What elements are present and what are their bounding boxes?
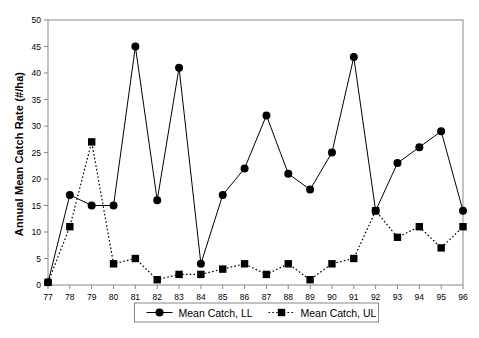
series-point-marker: [241, 260, 248, 267]
series-point-marker: [262, 111, 270, 119]
series-point-marker: [372, 207, 379, 214]
series-point-marker: [175, 271, 182, 278]
x-axis-tick-label: 94: [415, 292, 425, 302]
x-axis-tick-label: 83: [174, 292, 184, 302]
x-axis-tick-label: 90: [327, 292, 337, 302]
series-point-marker: [110, 260, 117, 267]
y-axis-tick-label: 25: [32, 148, 42, 158]
series-point-marker: [131, 43, 139, 51]
series-point-marker: [350, 53, 358, 61]
series-point-marker: [88, 202, 96, 210]
chart-legend: Mean Catch, LLMean Catch, UL: [135, 303, 379, 322]
series-point-marker: [393, 159, 401, 167]
x-axis-tick-labels: 7778798081828384858687888990919293949596: [43, 285, 468, 302]
x-axis-tick-label: 80: [109, 292, 119, 302]
legend-label-ll: Mean Catch, LL: [179, 307, 253, 319]
y-axis-tick-label: 15: [32, 201, 42, 211]
x-axis-tick-label: 78: [65, 292, 75, 302]
series-point-marker: [66, 191, 74, 199]
series-point-marker: [415, 143, 423, 151]
series-point-marker: [44, 279, 51, 286]
x-axis-tick-label: 86: [240, 292, 250, 302]
series-point-marker: [284, 170, 292, 178]
x-axis-tick-label: 95: [436, 292, 446, 302]
y-axis-tick-label: 10: [32, 227, 42, 237]
series-point-marker: [285, 260, 292, 267]
series-point-marker: [263, 271, 270, 278]
series-point-marker: [197, 271, 204, 278]
series-point-marker: [219, 265, 226, 272]
x-axis-tick-label: 84: [196, 292, 206, 302]
y-axis-tick-label: 50: [32, 15, 42, 25]
x-axis-tick-label: 77: [43, 292, 53, 302]
y-axis-tick-label: 45: [32, 42, 42, 52]
series-point-marker: [153, 196, 161, 204]
x-axis-tick-label: 92: [371, 292, 381, 302]
y-axis-tick-label: 30: [32, 121, 42, 131]
data-series: [44, 138, 466, 286]
x-axis-tick-label: 96: [458, 292, 468, 302]
series-point-marker: [459, 223, 466, 230]
y-axis-tick-label: 5: [36, 254, 41, 264]
x-axis-tick-label: 88: [284, 292, 294, 302]
series-point-marker: [219, 191, 227, 199]
series-point-marker: [394, 234, 401, 241]
x-axis-tick-label: 89: [305, 292, 315, 302]
x-axis-tick-label: 93: [393, 292, 403, 302]
y-axis-tick-label: 40: [32, 68, 42, 78]
legend-marker-circle-icon: [156, 309, 164, 317]
series-point-marker: [88, 138, 95, 145]
series-point-marker: [437, 127, 445, 135]
x-axis-tick-label: 91: [349, 292, 359, 302]
series-point-marker: [328, 149, 336, 157]
y-axis-tick-label: 20: [32, 174, 42, 184]
series-point-marker: [328, 260, 335, 267]
y-axis-tick-labels: 05101520253035404550: [32, 15, 48, 290]
series-point-marker: [350, 255, 357, 262]
x-axis-tick-label: 81: [131, 292, 141, 302]
data-series: [44, 43, 467, 287]
series-point-marker: [110, 202, 118, 210]
y-axis-tick-label: 0: [36, 280, 41, 290]
y-axis-tick-label: 35: [32, 95, 42, 105]
series-point-marker: [175, 64, 183, 72]
x-axis-tick-label: 87: [262, 292, 272, 302]
x-axis-tick-label: 79: [87, 292, 97, 302]
series-point-marker: [66, 223, 73, 230]
legend-label-ul: Mean Catch, UL: [301, 307, 377, 319]
series-point-marker: [306, 186, 314, 194]
data-series-group: [44, 43, 467, 287]
chart-container: Annual Mean Catch Rate (#/ha) 0510152025…: [0, 0, 479, 338]
chart-plot-area: 05101520253035404550 7778798081828384858…: [0, 0, 479, 338]
legend-marker-square-icon: [278, 309, 285, 316]
x-axis-tick-label: 82: [152, 292, 162, 302]
x-axis-tick-label: 85: [218, 292, 228, 302]
series-point-marker: [437, 244, 444, 251]
series-point-marker: [197, 260, 205, 268]
series-point-marker: [306, 276, 313, 283]
series-point-marker: [241, 164, 249, 172]
series-point-marker: [154, 276, 161, 283]
series-point-marker: [459, 207, 467, 215]
series-point-marker: [132, 255, 139, 262]
series-point-marker: [416, 223, 423, 230]
